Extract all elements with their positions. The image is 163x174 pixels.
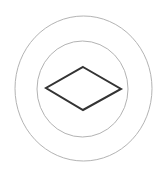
diagram-canvas <box>0 0 163 174</box>
diagram-svg <box>0 0 163 174</box>
outer-circle <box>15 16 152 161</box>
diamond-shape <box>46 67 121 110</box>
inner-circle <box>37 41 128 137</box>
